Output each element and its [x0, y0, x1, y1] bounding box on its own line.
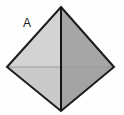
vertex-label-a: A: [23, 16, 31, 30]
figure-canvas: A: [0, 0, 124, 115]
pyramid-diagram: A: [0, 0, 124, 115]
